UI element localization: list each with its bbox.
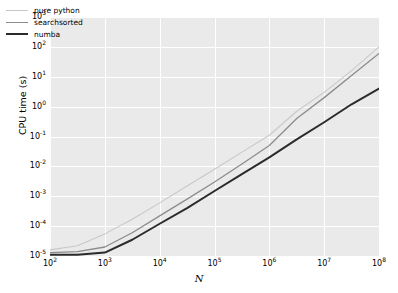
- legend-entry-searchsorted[interactable]: searchsorted: [6, 16, 83, 28]
- exponent: 4: [163, 256, 167, 263]
- legend-line-swatch: [6, 33, 28, 35]
- legend-entry-numba[interactable]: numba: [6, 28, 83, 40]
- chart-figure: 10310210110010-110-210-310-410-5 1021031…: [0, 0, 398, 293]
- exponent: 3: [108, 256, 112, 263]
- chart-legend: pure pythonsearchsortednumba: [6, 4, 83, 40]
- exponent: -3: [40, 189, 46, 196]
- legend-line-swatch: [6, 22, 28, 23]
- exponent: 2: [53, 256, 57, 263]
- exponent: -2: [40, 159, 46, 166]
- exponent: 1: [42, 69, 46, 76]
- legend-label: pure python: [34, 6, 80, 15]
- exponent: 5: [218, 256, 222, 263]
- x-axis-label: N: [0, 273, 398, 284]
- legend-label: numba: [34, 30, 60, 39]
- y-tick-label: 10-3: [2, 191, 46, 200]
- legend-label: searchsorted: [34, 18, 83, 27]
- plot-area: [50, 17, 379, 256]
- exponent: -4: [40, 218, 46, 225]
- x-tick-label: 102: [30, 259, 70, 268]
- y-axis-label: CPU time (s): [17, 46, 28, 166]
- x-tick-label: 104: [140, 259, 180, 268]
- x-tick-label: 106: [249, 259, 289, 268]
- series-line-searchsorted: [50, 54, 379, 253]
- exponent: 2: [42, 39, 46, 46]
- series-line-pure-python: [50, 47, 379, 250]
- legend-entry-pure-python[interactable]: pure python: [6, 4, 83, 16]
- exponent: 7: [327, 256, 331, 263]
- exponent: 6: [273, 256, 277, 263]
- x-tick-label: 105: [195, 259, 235, 268]
- exponent: -1: [40, 129, 46, 136]
- x-tick-label: 107: [304, 259, 344, 268]
- x-tick-label: 108: [359, 259, 398, 268]
- legend-line-swatch: [6, 10, 28, 11]
- series-line-numba: [50, 89, 379, 255]
- x-tick-label: 103: [85, 259, 125, 268]
- y-tick-label: 10-4: [2, 221, 46, 230]
- chart-series-layer: [50, 17, 379, 256]
- exponent: -5: [40, 248, 46, 255]
- exponent: 8: [382, 256, 386, 263]
- exponent: 0: [42, 99, 46, 106]
